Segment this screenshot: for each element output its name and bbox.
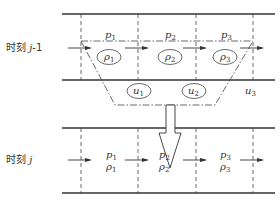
time-label-prev: 时刻 j-1 [6, 41, 42, 53]
section-curr: p1 ρ1 p2 ρ2 p3 ρ3 时刻 j [6, 128, 275, 193]
p1-label: p1 [105, 29, 116, 42]
flow-arrow-icon [240, 158, 264, 162]
time-label-curr: 时刻 j [6, 153, 32, 165]
p2-label: p2 [165, 29, 176, 42]
rho2-label: ρ2 [158, 161, 169, 174]
rho1-label: ρ1 [103, 51, 114, 64]
rho3-label: ρ3 [219, 51, 230, 64]
flow-arrow-icon [125, 46, 149, 50]
rho3-label: ρ3 [219, 161, 230, 174]
diagram-canvas: p1 p2 p3 ρ1 ρ2 ρ3 u1 u2 u3 时刻 j-1 [0, 0, 280, 203]
u2-label: u2 [188, 85, 199, 98]
flow-arrow-icon [68, 158, 92, 162]
flow-arrow-icon [125, 158, 149, 162]
p3-label: p3 [221, 29, 232, 42]
flow-arrow-icon [240, 46, 264, 50]
rho1-label: ρ1 [105, 161, 116, 174]
rho2-label: ρ2 [164, 51, 175, 64]
u1-label: u1 [133, 85, 144, 98]
flow-arrow-icon [68, 46, 92, 50]
flow-arrow-icon [183, 158, 207, 162]
section-prev: p1 p2 p3 ρ1 ρ2 ρ3 u1 u2 u3 时刻 j-1 [6, 14, 275, 105]
flow-arrow-icon [183, 46, 207, 50]
u3-label: u3 [245, 85, 256, 98]
